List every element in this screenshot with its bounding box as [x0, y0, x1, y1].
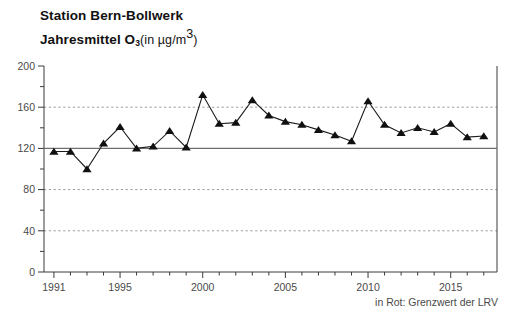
data-point-2000 [198, 91, 207, 98]
y-axis-labels-group: 04080120160200 [17, 60, 35, 278]
series-line-o3 [54, 95, 484, 169]
y-tick-label-200: 200 [17, 60, 35, 72]
y-axis-ticks-group [38, 66, 44, 272]
data-point-2008 [330, 131, 339, 138]
gridlines-group [44, 107, 497, 231]
x-axis-labels-group: 199119952000200520102015 [42, 281, 462, 293]
data-point-1998 [165, 127, 174, 134]
data-point-2011 [380, 121, 389, 128]
data-point-2013 [413, 124, 422, 131]
data-point-2015 [446, 120, 455, 127]
x-axis-ticks-group [54, 272, 484, 278]
x-tick-label-2005: 2005 [274, 281, 298, 293]
y-tick-label-120: 120 [17, 142, 35, 154]
data-point-2012 [397, 129, 406, 136]
data-point-2003 [248, 96, 257, 103]
chart-footnote: in Rot: Grenzwert der LRV [375, 296, 498, 308]
y-tick-label-160: 160 [17, 101, 35, 113]
x-tick-label-1991: 1991 [42, 281, 66, 293]
x-tick-label-2000: 2000 [191, 281, 215, 293]
data-point-2007 [314, 126, 323, 133]
x-tick-label-2015: 2015 [439, 281, 463, 293]
data-point-2010 [363, 97, 372, 104]
data-point-2009 [347, 137, 356, 144]
x-tick-label-1995: 1995 [108, 281, 132, 293]
y-tick-label-40: 40 [23, 225, 35, 237]
chart-plot-area: 04080120160200 199119952000200520102015 [0, 0, 514, 324]
data-point-2005 [281, 118, 290, 125]
y-tick-label-80: 80 [23, 183, 35, 195]
y-tick-label-0: 0 [29, 266, 35, 278]
data-point-1995 [115, 123, 124, 130]
x-tick-label-2010: 2010 [356, 281, 380, 293]
chart-figure: Station Bern-Bollwerk Jahresmittel O3(in… [0, 0, 514, 324]
